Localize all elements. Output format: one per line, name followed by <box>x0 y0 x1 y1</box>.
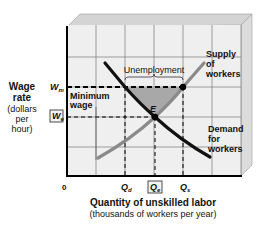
demand-label-line2: for <box>208 134 220 144</box>
demand-label-line1: Demand <box>208 124 244 134</box>
supply-label-line2: of <box>206 59 215 69</box>
demand-label-line3: workers <box>207 144 243 154</box>
supply-label-line3: workers <box>205 69 241 79</box>
supply-at-min-wage-point <box>180 84 186 90</box>
frame-right-face <box>241 14 252 176</box>
x-axis-sublabel: (thousands of workers per year) <box>89 209 216 219</box>
y-axis-label-line1: Wage <box>9 81 36 92</box>
equilibrium-point <box>152 114 158 120</box>
qd-tick-label: Qd <box>121 182 132 193</box>
supply-label-line1: Supply <box>206 49 236 59</box>
qs-tick-label: Qs <box>180 182 191 193</box>
y-axis-label-line3: (dollars <box>7 104 37 114</box>
y-axis-label-line4: per <box>15 114 28 124</box>
y-axis-label-line5: hour) <box>11 124 32 134</box>
x-axis-label: Quantity of unskilled labor <box>90 197 216 208</box>
origin-label: 0 <box>62 183 67 192</box>
minimum-wage-label-line2: wage <box>69 100 93 110</box>
minimum-wage-chart: Unemployment E Minimum wage Supply of wo… <box>0 0 262 229</box>
equilibrium-label: E <box>150 104 157 114</box>
wm-tick-label: Wm <box>50 82 65 93</box>
unemployment-label: Unemployment <box>124 65 185 75</box>
y-axis-label-line2: rate <box>13 92 32 103</box>
